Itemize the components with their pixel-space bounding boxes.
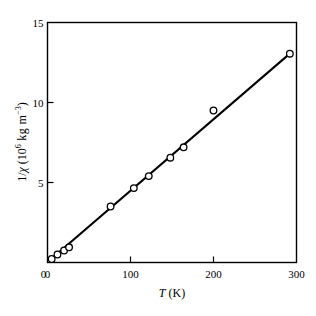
x-tick-label-300: 300 [288,269,305,280]
data-point-9 [210,107,217,114]
x-tick-label-200: 200 [205,269,222,280]
data-point-8 [180,144,187,151]
data-point-5 [131,185,138,192]
x-axis-symbol: T [159,286,166,300]
y-axis-title: 1/χ (106 kg m−3) [15,102,30,182]
data-point-7 [167,154,174,161]
data-point-4 [107,203,114,210]
chart-figure: 0100200300 051015 T (K) 1/χ (106 kg m−3) [0,0,316,316]
y-tick-label-15: 15 [26,17,44,28]
x-tick-label-100: 100 [122,269,139,280]
y-axis-symbol: χ [15,167,29,172]
data-point-0 [48,256,55,263]
y-axis-unit-mid: kg m [15,115,29,144]
y-axis-unit-exponent: 6 [14,144,23,148]
data-point-1 [54,251,61,258]
y-axis-unit-close: ) [15,102,29,106]
data-point-3 [66,244,73,251]
y-axis-unit-open: (10 [15,148,29,167]
x-axis-title: T (K) [159,286,185,301]
y-axis-unit-exponent-2: −3 [14,106,23,115]
data-point-6 [145,173,152,180]
data-point-10 [287,50,294,57]
y-tick-label-0: 0 [41,269,47,280]
x-axis-unit: (K) [169,286,186,300]
y-axis-prefix: 1/ [15,173,29,182]
